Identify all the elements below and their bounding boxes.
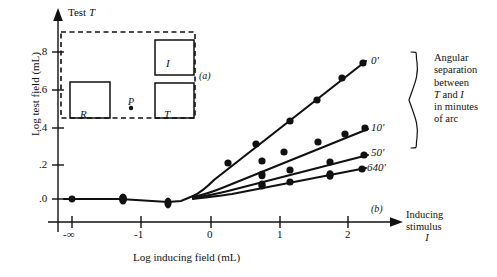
datapoints-series-50 [258,151,367,179]
plot-canvas [0,0,497,277]
datapoint [314,138,321,145]
legend-brace [409,52,417,148]
curve-series-640 [193,168,366,199]
datapoints-series-0 [224,59,366,166]
inset-box-T [155,83,194,118]
curve-baseline [64,196,193,202]
y-axis-arrowhead [53,8,63,21]
datapoint [258,180,266,189]
datapoint [360,151,367,158]
datapoint [341,130,348,137]
datapoint [224,159,231,166]
inset-box-R [70,82,110,118]
inset-point-P [129,106,133,110]
inset-box-I [155,40,194,75]
datapoint [326,170,334,180]
datapoint [286,117,293,124]
datapoint [258,157,265,164]
datapoint [164,198,171,209]
curve-series-10 [193,129,368,197]
curve-series-0 [193,61,366,196]
datapoint [286,166,293,173]
datapoint [119,193,127,204]
datapoint [258,171,265,179]
datapoint [326,158,333,165]
x-axis-arrowhead [390,217,403,227]
datapoint [359,59,366,66]
figure-container: Log test field (mL) Test T .8 .6 .4 .2 .… [0,0,497,277]
datapoint [286,178,293,185]
datapoint [338,74,345,81]
datapoint [313,96,320,103]
x-axis [48,217,403,227]
datapoint [358,165,365,172]
datapoint [69,196,76,203]
datapoint [280,148,287,155]
datapoint [252,140,259,147]
datapoint [361,124,368,131]
